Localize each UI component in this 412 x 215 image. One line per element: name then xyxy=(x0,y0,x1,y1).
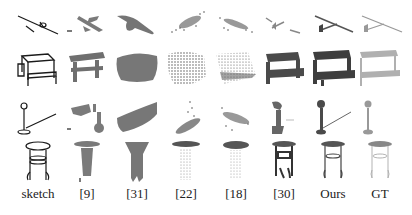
result-9-lamp xyxy=(63,98,111,142)
result-31-picnic-table xyxy=(113,46,161,90)
sketch-lamp xyxy=(14,98,62,142)
sketch-stool xyxy=(14,140,62,184)
result-ours-airplane xyxy=(309,2,357,46)
result-22-stool xyxy=(162,140,210,184)
result-9-picnic-table xyxy=(63,46,111,90)
result-30-lamp xyxy=(260,98,308,142)
result-ours-lamp xyxy=(309,98,357,142)
result-31-lamp xyxy=(113,98,161,142)
gt-picnic-table xyxy=(356,46,404,90)
result-22-airplane xyxy=(162,2,210,46)
column-label-ref-31: [31] xyxy=(113,186,161,202)
column-label-ref-9: [9] xyxy=(63,186,111,202)
sketch-airplane xyxy=(14,2,62,46)
column-label-ref-18: [18] xyxy=(212,186,260,202)
column-label-sketch: sketch xyxy=(14,186,62,202)
gt-lamp xyxy=(356,98,404,142)
result-30-stool xyxy=(260,140,308,184)
result-9-airplane xyxy=(63,2,111,46)
column-label-ref-22: [22] xyxy=(162,186,210,202)
result-18-airplane xyxy=(212,2,260,46)
gt-airplane xyxy=(356,2,404,46)
column-label-ref-30: [30] xyxy=(260,186,308,202)
result-ours-stool xyxy=(309,140,357,184)
result-22-picnic-table xyxy=(162,46,210,90)
result-18-lamp xyxy=(212,98,260,142)
result-18-stool xyxy=(212,140,260,184)
column-label-ours: Ours xyxy=(309,186,357,202)
column-label-gt: GT xyxy=(356,186,404,202)
result-18-picnic-table xyxy=(212,46,260,90)
result-31-airplane xyxy=(113,2,161,46)
result-30-picnic-table xyxy=(260,46,308,90)
result-ours-picnic-table xyxy=(309,46,357,90)
result-31-stool xyxy=(113,140,161,184)
gt-stool xyxy=(356,140,404,184)
result-22-lamp xyxy=(162,98,210,142)
sketch-picnic-table xyxy=(14,46,62,90)
result-30-airplane xyxy=(260,2,308,46)
comparison-figure: sketch [9] [31] [22] [18] [30] Ours GT xyxy=(0,0,412,215)
result-9-stool xyxy=(63,140,111,184)
